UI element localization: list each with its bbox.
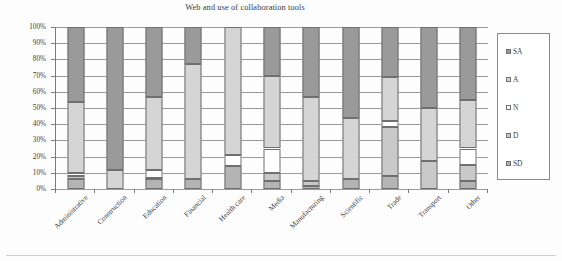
legend-swatch-icon xyxy=(506,77,511,82)
bar-segment-a[interactable] xyxy=(67,102,84,173)
stacked-bar[interactable] xyxy=(381,27,398,189)
x-axis-category-label: Media xyxy=(266,193,286,213)
bar-segment-n[interactable] xyxy=(263,149,280,173)
bar-segment-sa[interactable] xyxy=(421,27,438,108)
bar-slot xyxy=(409,27,448,189)
x-axis-category-label: Trade xyxy=(385,193,403,211)
bar-slot xyxy=(213,27,252,189)
bar-segment-n[interactable] xyxy=(67,173,84,176)
bar-segment-a[interactable] xyxy=(303,97,320,181)
bar-segment-sa[interactable] xyxy=(263,27,280,76)
bar-segment-d[interactable] xyxy=(421,161,438,189)
y-axis-tick-label: 20% xyxy=(33,153,46,161)
legend-item-a[interactable]: A xyxy=(506,76,518,83)
x-axis-category-label: Scientific xyxy=(338,193,364,219)
bar-slot xyxy=(292,27,331,189)
y-axis-tick-label: 0% xyxy=(36,185,46,193)
bar-segment-d[interactable] xyxy=(303,181,320,186)
legend-label: SD xyxy=(513,160,522,167)
bar-segment-sa[interactable] xyxy=(381,27,398,77)
page-divider xyxy=(6,255,556,256)
legend-swatch-icon xyxy=(506,133,511,138)
plot-area xyxy=(55,27,488,190)
stacked-bar[interactable] xyxy=(185,27,202,189)
bar-segment-sa[interactable] xyxy=(185,27,202,64)
bar-segment-sa[interactable] xyxy=(303,27,320,97)
stacked-bar[interactable] xyxy=(421,27,438,189)
legend-item-sd[interactable]: SD xyxy=(506,160,522,167)
stacked-bar[interactable] xyxy=(460,27,477,189)
bar-segment-sd[interactable] xyxy=(224,166,241,189)
bar-segment-a[interactable] xyxy=(460,100,477,149)
stacked-bar[interactable] xyxy=(146,27,163,189)
legend-label: A xyxy=(513,76,518,83)
bar-segment-sd[interactable] xyxy=(342,179,359,189)
x-axis-category-label: Transport xyxy=(417,193,444,220)
legend-item-n[interactable]: N xyxy=(506,104,518,111)
bar-segment-sd[interactable] xyxy=(460,181,477,189)
bar-slot xyxy=(252,27,291,189)
x-axis-category-label: Other xyxy=(464,193,482,211)
stacked-bar[interactable] xyxy=(67,27,84,189)
y-axis-tick-label: 70% xyxy=(33,72,46,80)
bar-slot xyxy=(370,27,409,189)
x-axis-tick-mark xyxy=(487,189,488,193)
bar-segment-sd[interactable] xyxy=(381,176,398,189)
bar-segment-a[interactable] xyxy=(224,27,241,155)
bar-segment-d[interactable] xyxy=(146,178,163,180)
legend-swatch-icon xyxy=(506,49,511,54)
bar-segment-a[interactable] xyxy=(185,64,202,179)
bar-segment-n[interactable] xyxy=(224,155,241,166)
bar-series-group xyxy=(56,27,488,189)
bar-segment-a[interactable] xyxy=(106,170,123,189)
bar-segment-sa[interactable] xyxy=(146,27,163,97)
chart-legend: SAANDSD xyxy=(497,33,550,180)
bar-segment-sa[interactable] xyxy=(106,27,123,170)
bar-segment-sd[interactable] xyxy=(67,179,84,189)
bar-segment-a[interactable] xyxy=(342,118,359,180)
x-axis-category-label: Manufacturing xyxy=(288,193,325,230)
x-axis-labels: AdministrativeConstructionEducationFinan… xyxy=(55,193,487,255)
bar-segment-n[interactable] xyxy=(146,170,163,178)
legend-label: SA xyxy=(513,48,522,55)
y-axis-labels: 100%90%80%70%60%50%40%30%20%10%0% xyxy=(0,27,52,189)
bar-segment-sa[interactable] xyxy=(460,27,477,100)
bar-segment-sd[interactable] xyxy=(146,179,163,189)
bar-slot xyxy=(449,27,488,189)
y-axis-tick-label: 90% xyxy=(33,39,46,47)
stacked-bar[interactable] xyxy=(342,27,359,189)
bar-segment-n[interactable] xyxy=(381,121,398,127)
legend-label: N xyxy=(513,104,518,111)
stacked-bar[interactable] xyxy=(303,27,320,189)
bar-slot xyxy=(135,27,174,189)
stacked-bar[interactable] xyxy=(106,27,123,189)
y-axis-tick-label: 50% xyxy=(33,104,46,112)
stacked-bar[interactable] xyxy=(263,27,280,189)
bar-segment-a[interactable] xyxy=(381,77,398,121)
legend-item-d[interactable]: D xyxy=(506,132,518,139)
bar-segment-d[interactable] xyxy=(381,127,398,176)
y-axis-tick-label: 100% xyxy=(29,23,46,31)
bar-slot xyxy=(95,27,134,189)
x-axis-category-label: Construction xyxy=(96,193,129,226)
bar-segment-d[interactable] xyxy=(263,173,280,181)
bar-segment-a[interactable] xyxy=(146,97,163,170)
bar-segment-d[interactable] xyxy=(67,176,84,179)
bar-segment-sa[interactable] xyxy=(67,27,84,102)
bar-segment-sd[interactable] xyxy=(263,181,280,189)
stacked-bar[interactable] xyxy=(224,27,241,189)
legend-item-sa[interactable]: SA xyxy=(506,48,522,55)
legend-label: D xyxy=(513,132,518,139)
y-axis-tick-label: 80% xyxy=(33,55,46,63)
bar-slot xyxy=(56,27,95,189)
bar-segment-a[interactable] xyxy=(421,108,438,161)
x-axis-category-label: Administrative xyxy=(52,193,90,231)
bar-segment-a[interactable] xyxy=(263,76,280,149)
y-axis-tick-label: 10% xyxy=(33,169,46,177)
bar-segment-sa[interactable] xyxy=(342,27,359,118)
bar-segment-sd[interactable] xyxy=(185,179,202,189)
x-axis-category-label: Education xyxy=(141,193,169,221)
bar-segment-n[interactable] xyxy=(460,149,477,165)
bar-segment-d[interactable] xyxy=(460,165,477,181)
y-axis-tick-label: 30% xyxy=(33,136,46,144)
